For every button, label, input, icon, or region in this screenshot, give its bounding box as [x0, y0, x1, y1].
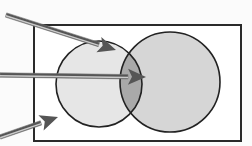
- venn-diagram: [0, 0, 252, 146]
